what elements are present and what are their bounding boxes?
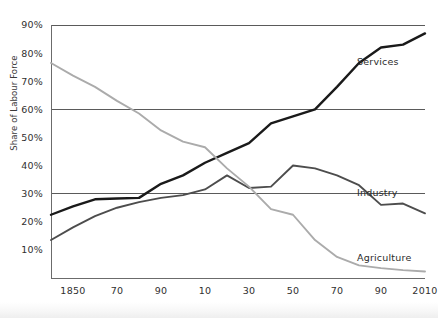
x-tick-label-2010: 2010 xyxy=(412,285,437,296)
x-tick-label-1990: 90 xyxy=(375,285,388,296)
x-tick-label-1870: 70 xyxy=(111,285,124,296)
labour-force-share-chart: Share of Labour Force 10%20%30%40%50%60%… xyxy=(0,0,438,318)
x-axis-tick-labels: 1850709010305070902010 xyxy=(60,285,437,296)
x-tick-label-1970: 70 xyxy=(331,285,344,296)
y-tick-label-90: 90% xyxy=(21,19,43,30)
chart-plot-area: 10%20%30%40%50%60%70%80%90% 185070901030… xyxy=(0,0,438,318)
series-lines-group xyxy=(51,33,425,271)
x-tick-label-1910: 10 xyxy=(199,285,212,296)
y-tick-label-60: 60% xyxy=(21,104,43,115)
y-tick-label-70: 70% xyxy=(21,76,43,87)
x-tick-label-1890: 90 xyxy=(155,285,168,296)
y-tick-label-20: 20% xyxy=(21,216,43,227)
y-tick-label-30: 30% xyxy=(21,188,43,199)
y-tick-label-10: 10% xyxy=(21,244,43,255)
y-tick-label-80: 80% xyxy=(21,48,43,59)
y-axis-tick-labels: 10%20%30%40%50%60%70%80%90% xyxy=(21,19,43,255)
x-tick-label-1950: 50 xyxy=(287,285,300,296)
x-tick-label-1850: 1850 xyxy=(60,285,85,296)
y-tick-label-50: 50% xyxy=(21,132,43,143)
x-tick-label-1930: 30 xyxy=(243,285,256,296)
y-tick-label-40: 40% xyxy=(21,160,43,171)
series-line-agriculture xyxy=(51,63,425,272)
series-inline-labels: ServicesIndustryAgriculture xyxy=(357,56,411,263)
series-label-services: Services xyxy=(357,56,399,67)
series-label-industry: Industry xyxy=(357,187,398,198)
series-label-agriculture: Agriculture xyxy=(357,252,411,263)
